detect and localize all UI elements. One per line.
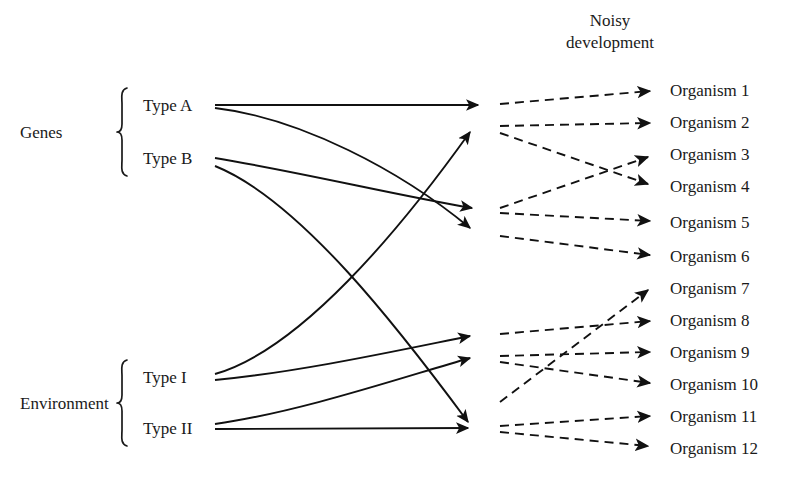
- type-a-to-n4: [215, 108, 470, 228]
- dashed-edge-group: [500, 91, 650, 446]
- label-organism-11: Organism 11: [670, 408, 757, 425]
- label-organism-3: Organism 3: [670, 146, 750, 163]
- label-organism-9: Organism 9: [670, 344, 750, 361]
- diagram-title: Noisy development: [545, 10, 675, 55]
- n2-to-organism-2: [500, 123, 650, 126]
- type-ii-to-n8: [215, 428, 468, 429]
- brace-genes: [117, 88, 127, 176]
- brace-environment: [117, 360, 127, 446]
- label-organism-2: Organism 2: [670, 114, 750, 131]
- n6-to-organism-9: [500, 352, 650, 356]
- group-label-genes: Genes: [20, 124, 62, 141]
- label-organism-8: Organism 8: [670, 312, 750, 329]
- diagram-title-line-2: development: [545, 32, 675, 54]
- n7-to-organism-7: [500, 290, 648, 402]
- n3-to-organism-5: [500, 213, 650, 221]
- label-organism-5: Organism 5: [670, 214, 750, 231]
- n6-to-organism-10: [500, 362, 650, 383]
- n8-to-organism-12: [500, 432, 648, 446]
- n1-to-organism-1: [500, 91, 650, 104]
- n4-to-organism-6: [500, 236, 650, 255]
- solid-edge-group: [215, 105, 478, 429]
- input-label-type-ii: Type II: [143, 420, 192, 437]
- n2-to-organism-4: [500, 133, 648, 184]
- n5-to-organism-8: [500, 321, 650, 334]
- n8-to-organism-11: [500, 416, 650, 426]
- type-b-to-n8: [215, 166, 468, 422]
- input-label-type-b: Type B: [143, 150, 192, 167]
- diagram-canvas: Noisy development GenesEnvironment Type …: [0, 0, 794, 494]
- label-organism-6: Organism 6: [670, 248, 750, 265]
- input-label-type-i: Type I: [143, 369, 187, 386]
- n3-to-organism-3: [500, 157, 648, 208]
- type-b-to-n3: [215, 158, 472, 208]
- type-ii-to-n6: [215, 358, 470, 424]
- label-organism-4: Organism 4: [670, 178, 750, 195]
- label-organism-10: Organism 10: [670, 376, 758, 393]
- input-label-type-a: Type A: [143, 97, 192, 114]
- label-organism-12: Organism 12: [670, 440, 758, 457]
- group-label-environment: Environment: [20, 395, 109, 412]
- type-i-to-n2: [215, 132, 470, 374]
- diagram-title-line-1: Noisy: [545, 10, 675, 32]
- label-organism-7: Organism 7: [670, 280, 750, 297]
- brace-group: [117, 88, 127, 446]
- label-organism-1: Organism 1: [670, 82, 750, 99]
